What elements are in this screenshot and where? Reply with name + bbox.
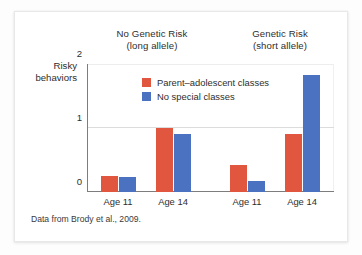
bar-series-a-2 (230, 165, 247, 192)
group-heading-no-genetic-risk: No Genetic Risk (long allele) (92, 28, 212, 51)
y-tick-label-0: 0 (77, 177, 82, 187)
bar-series-a-3 (285, 134, 302, 192)
legend-swatch-icon-series-a (142, 78, 151, 87)
group-heading-genetic-risk: Genetic Risk (short allele) (225, 28, 335, 51)
group-heading-genetic-risk-line2: (short allele) (225, 40, 335, 52)
legend-swatch-icon-series-b (142, 92, 151, 101)
bar-series-b-2 (248, 181, 265, 192)
y-tick-label-1: 1 (77, 113, 82, 123)
x-tick-label-0: Age 11 (103, 196, 132, 207)
x-tick-label-2: Age 11 (232, 196, 261, 207)
y-axis-label-line1: Risky (54, 60, 77, 71)
x-tick-label-1: Age 14 (158, 196, 188, 207)
legend-label-series-b: No special classes (157, 91, 235, 102)
bar-series-b-3 (303, 75, 320, 192)
legend: Parent–adolescent classes No special cla… (142, 75, 269, 103)
y-tick-label-2: 2 (77, 49, 82, 59)
group-heading-genetic-risk-line1: Genetic Risk (252, 28, 308, 39)
y-axis-label-line2: behaviors (21, 72, 77, 84)
figure-card: No Genetic Risk (long allele) Genetic Ri… (14, 11, 348, 242)
bar-series-a-0 (101, 176, 118, 192)
group-heading-no-genetic-risk-line1: No Genetic Risk (117, 28, 188, 39)
legend-item-series-a: Parent–adolescent classes (142, 75, 269, 89)
x-tick-label-3: Age 14 (287, 196, 317, 207)
bar-series-b-1 (174, 134, 191, 192)
group-heading-no-genetic-risk-line2: (long allele) (92, 40, 212, 52)
bar-series-a-1 (156, 128, 173, 192)
legend-label-series-a: Parent–adolescent classes (157, 77, 269, 88)
legend-item-series-b: No special classes (142, 89, 269, 103)
bar-series-b-0 (119, 177, 136, 192)
y-axis-label: Risky behaviors (21, 60, 77, 83)
source-note: Data from Brody et al., 2009. (31, 214, 141, 224)
